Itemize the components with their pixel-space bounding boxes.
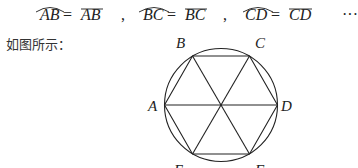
label-c: C <box>255 35 266 51</box>
label-e: E <box>173 162 183 168</box>
label-a: A <box>147 98 158 114</box>
geometry <box>165 49 278 162</box>
label-d: D <box>280 98 292 114</box>
label-f: F <box>254 162 265 168</box>
label-b: B <box>176 35 185 51</box>
arc-marks <box>36 8 273 13</box>
